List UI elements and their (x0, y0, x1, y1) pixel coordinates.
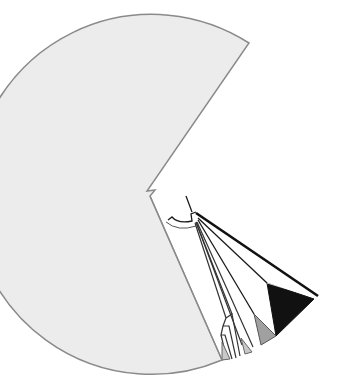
inner-arc-outline (166, 222, 196, 228)
root-branch (186, 196, 192, 212)
large-gray-clade (0, 14, 249, 374)
small-gray-clade-1 (222, 342, 230, 360)
black-clade (267, 283, 314, 336)
radial-tree-diagram (0, 0, 340, 391)
branch-d (195, 223, 226, 318)
inner-arc-connector (168, 212, 196, 222)
black-clade-branch-lower (198, 218, 267, 283)
tree-svg (0, 0, 340, 391)
